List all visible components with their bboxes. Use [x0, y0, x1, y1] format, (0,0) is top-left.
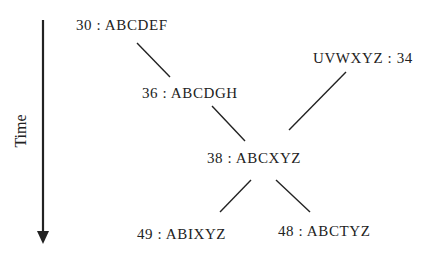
edge-38-49	[220, 180, 251, 212]
node-30-abcdef: 30 : ABCDEF	[76, 17, 168, 33]
edge-30-36	[137, 43, 170, 77]
time-axis: Time	[12, 20, 49, 244]
edge-34-38	[289, 72, 346, 130]
time-axis-label: Time	[12, 114, 29, 147]
nodes: 30 : ABCDEF 36 : ABCDGH UVWXYZ : 34 38 :…	[76, 17, 413, 242]
diagram-svg: Time 30 : ABCDEF 36 : ABCDGH UVWXYZ : 34…	[0, 0, 428, 260]
arrow-down-icon	[37, 231, 49, 244]
node-49-abixyz: 49 : ABIXYZ	[137, 226, 226, 242]
edges	[137, 43, 346, 212]
node-36-abcdgh: 36 : ABCDGH	[142, 85, 238, 101]
node-38-abcxyz: 38 : ABCXYZ	[207, 150, 301, 166]
node-uvwxyz-34: UVWXYZ : 34	[313, 50, 413, 66]
edge-36-38	[212, 106, 245, 141]
edge-38-48	[276, 180, 310, 212]
genealogy-diagram: Time 30 : ABCDEF 36 : ABCDGH UVWXYZ : 34…	[0, 0, 428, 260]
node-48-abctyz: 48 : ABCTYZ	[278, 223, 370, 239]
